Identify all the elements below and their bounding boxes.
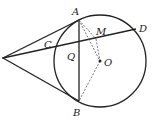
point-p — [2, 57, 4, 59]
label-d: D — [138, 23, 147, 34]
label-o: O — [104, 57, 112, 68]
label-b: B — [72, 107, 80, 118]
center-point-o — [99, 60, 102, 63]
label-a: A — [71, 6, 79, 17]
tangent-pb — [3, 58, 79, 101]
label-c: C — [44, 39, 52, 50]
geometry-diagram: A B C D M O Q — [0, 0, 159, 121]
label-m: M — [95, 26, 107, 37]
label-q: Q — [67, 51, 75, 62]
segment-ob-dashed — [79, 61, 100, 101]
